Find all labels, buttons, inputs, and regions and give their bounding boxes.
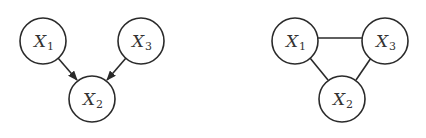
- node-x2: X2: [69, 76, 115, 122]
- edge-x3-to-x2: [107, 58, 126, 80]
- edge-x1-to-x2: [58, 58, 77, 80]
- edge-x3-x2: [356, 58, 371, 80]
- edge-x1-x2: [310, 58, 328, 80]
- diagram-canvas: X1 X3 X2 X1 X3 X2: [0, 0, 426, 138]
- node-x2: X2: [319, 76, 365, 122]
- node-x1: X1: [272, 18, 318, 64]
- undirected-graph: X1 X3 X2: [272, 18, 408, 122]
- node-x3: X3: [118, 18, 164, 64]
- node-x3: X3: [362, 18, 408, 64]
- node-x1: X1: [20, 18, 66, 64]
- directed-graph: X1 X3 X2: [20, 18, 164, 122]
